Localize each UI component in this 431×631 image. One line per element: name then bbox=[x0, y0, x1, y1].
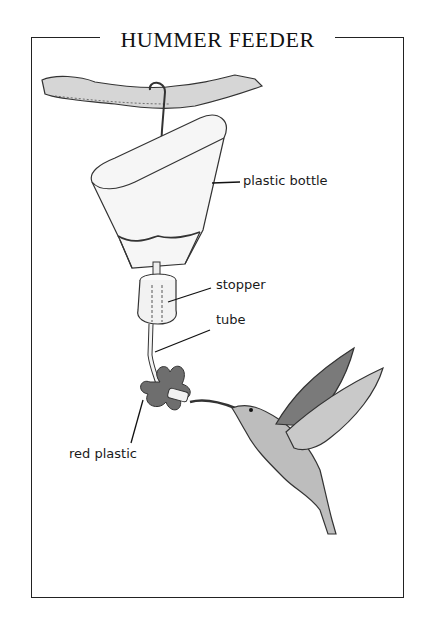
leader-plastic-bottle bbox=[212, 182, 240, 183]
plastic-bottle-icon bbox=[91, 115, 226, 268]
label-red-plastic: red plastic bbox=[69, 446, 137, 461]
label-plastic-bottle: plastic bottle bbox=[243, 173, 328, 188]
red-plastic-flower-icon bbox=[141, 366, 191, 410]
hummingbird-icon bbox=[190, 348, 383, 534]
label-tube: tube bbox=[216, 312, 246, 327]
leader-red-plastic bbox=[131, 400, 143, 443]
leader-tube bbox=[155, 330, 210, 352]
label-stopper: stopper bbox=[216, 277, 266, 292]
stopper-icon bbox=[138, 262, 177, 324]
branch-icon bbox=[42, 75, 262, 108]
